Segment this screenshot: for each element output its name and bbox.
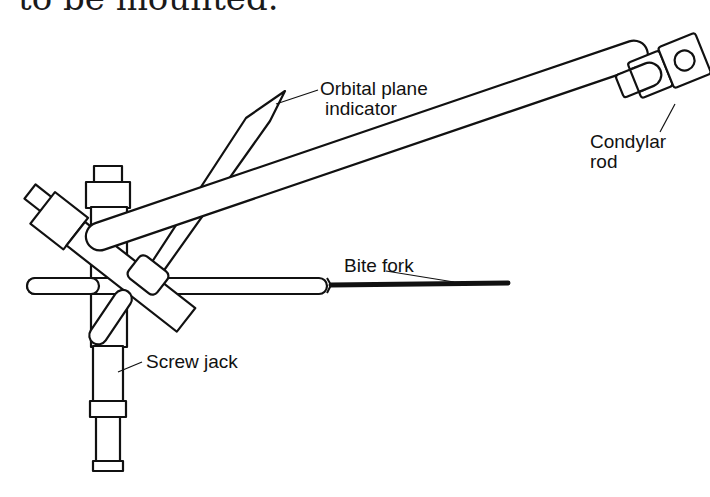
label-condylar-1: Condylar — [590, 131, 667, 152]
label-bite-fork: Bite fork — [344, 255, 414, 276]
bite-fork — [327, 278, 508, 293]
condylar-leader — [660, 104, 675, 132]
label-orbital-2: indicator — [325, 98, 397, 119]
condylar-arm — [82, 37, 651, 254]
label-screw-jack: Screw jack — [146, 351, 238, 372]
label-condylar-2: rod — [590, 151, 617, 172]
horizontal-bar — [27, 278, 327, 294]
facebow-diagram: Orbital plane indicator Condylar rod Bit… — [0, 0, 710, 497]
label-orbital-1: Orbital plane — [320, 78, 428, 99]
